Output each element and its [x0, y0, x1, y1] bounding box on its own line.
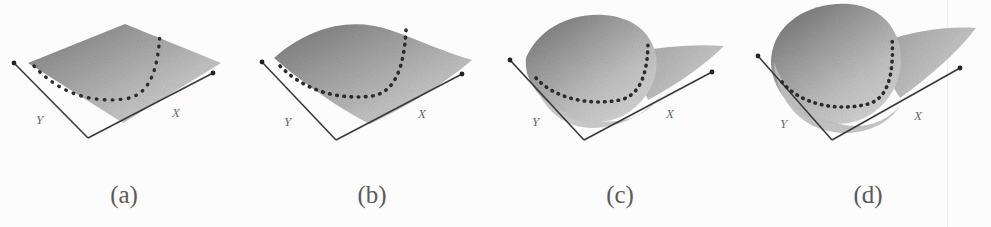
surface-mesh-a [28, 24, 221, 123]
panel-b: Y X (b) [248, 0, 496, 227]
surface-mesh-b [274, 24, 472, 124]
y-axis-label-a: Y [36, 112, 45, 127]
panel-d: Y X (d) [744, 0, 991, 227]
x-axis-label-c: X [665, 106, 675, 121]
panel-c: Y X (c) [496, 0, 744, 227]
surface-plot-c: Y X [496, 0, 744, 180]
figure-panel-row: Y X (a) [0, 0, 991, 227]
x-axis-label-b: X [417, 106, 427, 121]
x-axis-arrowhead-c [710, 70, 715, 75]
panel-caption-b: (b) [248, 180, 496, 210]
panel-a: Y X (a) [0, 0, 248, 227]
x-axis-label-a: X [171, 105, 181, 120]
x-axis-arrowhead-a [211, 71, 216, 76]
y-axis-arrowhead-a [12, 61, 17, 66]
y-axis-arrowhead-b [260, 60, 265, 65]
y-axis-arrowhead-c [508, 58, 513, 63]
surface-plot-a: Y X [0, 0, 248, 180]
x-axis-arrowhead-b [460, 72, 465, 77]
surface-mesh-c [526, 15, 657, 122]
y-axis-arrowhead-d [756, 54, 761, 59]
y-axis-label-c: Y [532, 114, 541, 129]
panel-caption-d: (d) [744, 180, 991, 210]
surface-plot-b: Y X [248, 0, 496, 180]
x-axis-arrowhead-d [958, 66, 963, 71]
surface-plot-d: Y X [744, 0, 991, 180]
y-axis-label-b: Y [284, 114, 293, 129]
panel-caption-a: (a) [0, 180, 248, 210]
x-axis-label-d: X [913, 108, 923, 123]
panel-caption-c: (c) [496, 180, 744, 210]
y-axis-label-d: Y [780, 116, 789, 131]
